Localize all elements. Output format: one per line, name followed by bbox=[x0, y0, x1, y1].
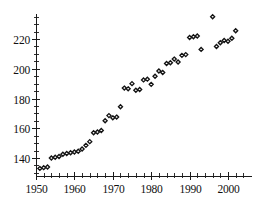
plot-area: 140160180200220 195019601970198019902000 bbox=[0, 0, 260, 203]
data-point bbox=[118, 105, 122, 109]
data-point bbox=[142, 78, 146, 82]
y-tick-label-200: 200 bbox=[13, 64, 30, 76]
data-point bbox=[176, 60, 180, 64]
y-tick-label-160: 160 bbox=[13, 123, 30, 135]
data-point bbox=[214, 44, 218, 48]
data-point bbox=[80, 147, 84, 151]
scatter-chart: 140160180200220 195019601970198019902000 bbox=[0, 0, 260, 203]
data-point bbox=[145, 77, 149, 81]
data-point bbox=[38, 166, 42, 170]
y-tick-label-220: 220 bbox=[13, 34, 30, 46]
data-point bbox=[180, 53, 184, 57]
data-point bbox=[103, 119, 107, 123]
data-point bbox=[61, 152, 65, 156]
data-point bbox=[161, 70, 165, 74]
data-point bbox=[76, 149, 80, 153]
data-point bbox=[184, 53, 188, 57]
data-point bbox=[57, 155, 61, 159]
data-point bbox=[69, 151, 73, 155]
y-axis: 140160180200220 bbox=[13, 14, 40, 176]
data-point bbox=[99, 128, 103, 132]
data-point bbox=[222, 38, 226, 42]
data-point bbox=[46, 165, 50, 169]
data-point bbox=[122, 86, 126, 90]
data-point bbox=[49, 156, 53, 160]
data-point bbox=[111, 116, 115, 120]
y-tick-label-140: 140 bbox=[13, 153, 30, 165]
data-point bbox=[195, 34, 199, 38]
x-tick-label-1960: 1960 bbox=[63, 183, 86, 195]
data-point bbox=[84, 143, 88, 147]
data-point bbox=[130, 82, 134, 86]
data-point bbox=[191, 35, 195, 39]
data-point bbox=[107, 114, 111, 118]
x-tick-label-1950: 1950 bbox=[25, 183, 48, 195]
data-point bbox=[149, 82, 153, 86]
data-point bbox=[211, 15, 215, 19]
data-point bbox=[88, 140, 92, 144]
data-point bbox=[126, 87, 130, 91]
data-point bbox=[53, 155, 57, 159]
y-axis-tick-labels: 140160180200220 bbox=[13, 34, 30, 165]
data-point bbox=[168, 61, 172, 65]
data-point bbox=[188, 36, 192, 40]
data-point bbox=[138, 88, 142, 92]
x-tick-label-1990: 1990 bbox=[179, 183, 202, 195]
data-point bbox=[199, 47, 203, 51]
data-point bbox=[65, 152, 69, 156]
data-point bbox=[165, 62, 169, 66]
data-point bbox=[92, 131, 96, 135]
x-tick-label-1970: 1970 bbox=[102, 183, 125, 195]
data-point-series bbox=[38, 15, 238, 171]
data-point bbox=[226, 39, 230, 43]
data-point bbox=[218, 41, 222, 45]
x-axis-tick-labels: 195019601970198019902000 bbox=[25, 183, 240, 195]
data-point bbox=[72, 150, 76, 154]
x-tick-label-2000: 2000 bbox=[217, 183, 240, 195]
x-axis: 195019601970198019902000 bbox=[25, 172, 252, 195]
x-tick-label-1980: 1980 bbox=[140, 183, 163, 195]
data-point bbox=[115, 115, 119, 119]
data-point bbox=[42, 166, 46, 170]
data-point bbox=[234, 29, 238, 33]
data-point bbox=[172, 57, 176, 61]
data-point bbox=[134, 88, 138, 92]
data-point bbox=[153, 74, 157, 78]
data-point bbox=[230, 36, 234, 40]
y-tick-label-180: 180 bbox=[13, 94, 30, 106]
